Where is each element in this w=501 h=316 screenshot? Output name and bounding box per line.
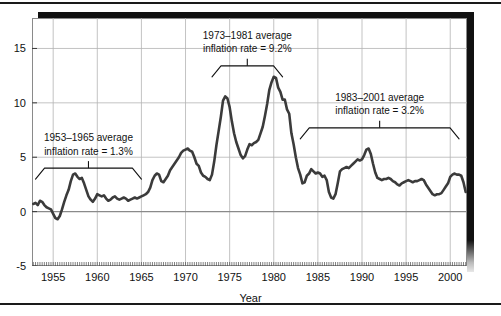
x-tick-label: 1990 [350, 272, 374, 283]
annotation-label-1953-1965: 1953–1965 average inflation rate = 1.3% [44, 131, 133, 158]
x-axis-title: Year [0, 292, 501, 304]
x-tick-label: 1970 [173, 272, 197, 283]
figure-container: -5051015 1955196019651970197519801985199… [0, 0, 501, 316]
annotation-line-2: inflation rate = 1.3% [44, 145, 133, 159]
x-tick-label: 1975 [217, 272, 241, 283]
annotation-line-2: inflation rate = 9.2% [203, 42, 292, 56]
x-tick-label: 2000 [438, 272, 462, 283]
annotation-line-1: 1953–1965 average [44, 131, 133, 145]
x-tick-label: 1985 [306, 272, 330, 283]
x-tick-label: 1965 [129, 272, 153, 283]
x-tick-label: 1960 [85, 272, 109, 283]
annotation-label-1973-1981: 1973–1981 average inflation rate = 9.2% [203, 29, 292, 56]
x-tick-label: 1995 [394, 272, 418, 283]
x-tick-label: 1980 [262, 272, 286, 283]
annotation-line-2: inflation rate = 3.2% [335, 104, 424, 118]
annotation-label-1983-2001: 1983–2001 average inflation rate = 3.2% [335, 91, 424, 118]
x-tick-label: 1955 [41, 272, 65, 283]
annotation-line-1: 1973–1981 average [203, 29, 292, 43]
annotation-line-1: 1983–2001 average [335, 91, 424, 105]
